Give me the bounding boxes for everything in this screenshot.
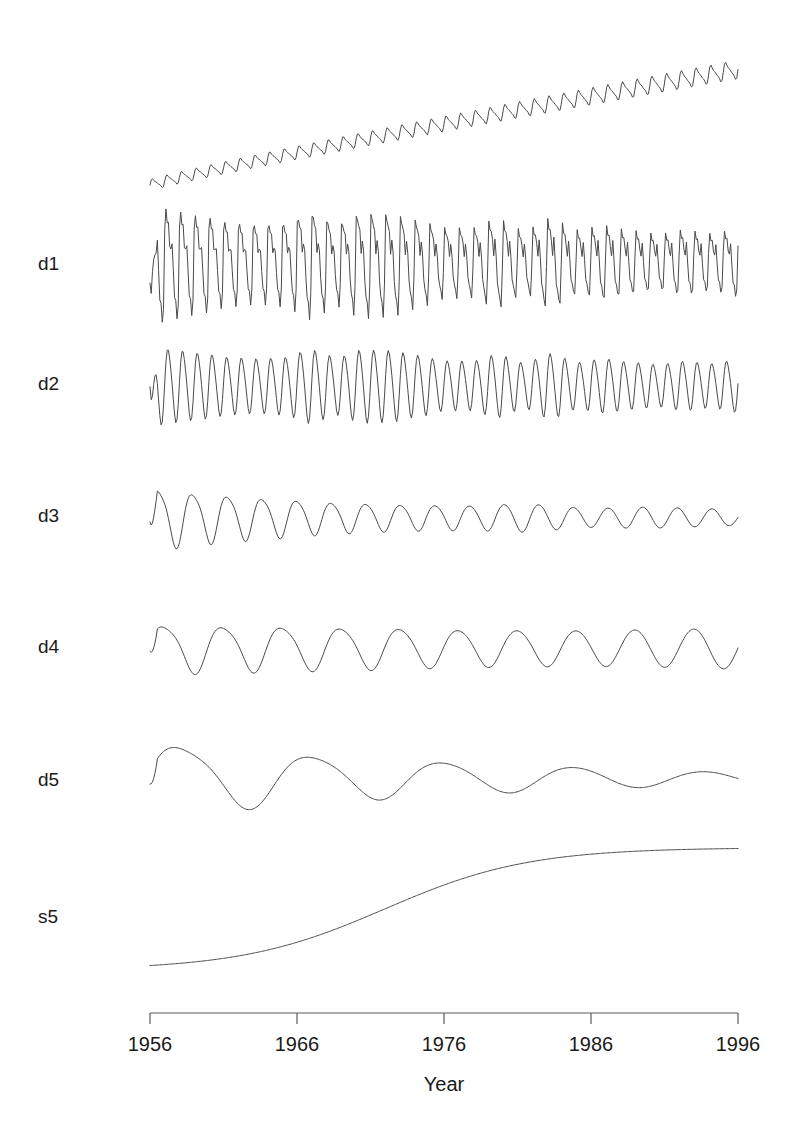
panel-label-d4: d4 xyxy=(38,636,60,657)
plot-canvas: d1d2d3d4d5s5 19561966197619861996 Year xyxy=(0,0,798,1136)
tick-label-1996: 1996 xyxy=(716,1033,761,1055)
wavelet-decomposition-figure: d1d2d3d4d5s5 19561966197619861996 Year xyxy=(0,0,798,1136)
x-axis-title: Year xyxy=(424,1073,465,1095)
panel-label-d2: d2 xyxy=(38,373,59,394)
tick-label-1986: 1986 xyxy=(569,1033,614,1055)
panel-label-d3: d3 xyxy=(38,505,59,526)
panel-label-s5: s5 xyxy=(38,906,58,927)
plot-background xyxy=(0,0,798,1136)
panel-label-d1: d1 xyxy=(38,253,59,274)
tick-label-1976: 1976 xyxy=(422,1033,467,1055)
tick-label-1966: 1966 xyxy=(275,1033,320,1055)
tick-label-1956: 1956 xyxy=(128,1033,173,1055)
panel-label-d5: d5 xyxy=(38,769,59,790)
